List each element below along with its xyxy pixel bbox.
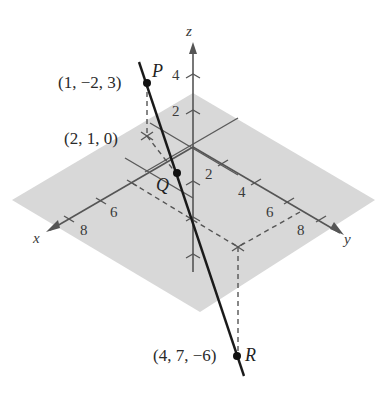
z-axis-label: z xyxy=(186,24,192,39)
point-r xyxy=(233,352,241,360)
y-tick-6: 6 xyxy=(266,205,274,220)
label-210-coords: (2, 1, 0) xyxy=(64,130,118,147)
x-tick-8: 8 xyxy=(80,223,88,238)
y-axis-label: y xyxy=(344,232,351,247)
z-axis-arrow xyxy=(189,42,197,54)
label-r-coords: (4, 7, −6) xyxy=(153,347,216,364)
label-p-coords: (1, −2, 3) xyxy=(58,74,121,91)
label-q: Q xyxy=(156,176,169,194)
diagram-canvas xyxy=(0,0,382,393)
z-tick-2: 2 xyxy=(172,104,180,119)
label-r: R xyxy=(245,346,256,364)
x-axis-label: x xyxy=(33,231,40,246)
y-tick-8: 8 xyxy=(297,223,305,238)
z-tick-4: 4 xyxy=(172,68,180,83)
label-p: P xyxy=(152,62,163,80)
point-p xyxy=(143,79,151,87)
x-tick-6: 6 xyxy=(110,205,118,220)
3d-diagram: (1, −2, 3) P (2, 1, 0) Q (4, 7, −6) R 4 … xyxy=(0,0,382,393)
point-q xyxy=(173,169,181,177)
y-tick-4: 4 xyxy=(238,185,246,200)
y-tick-2: 2 xyxy=(205,167,213,182)
